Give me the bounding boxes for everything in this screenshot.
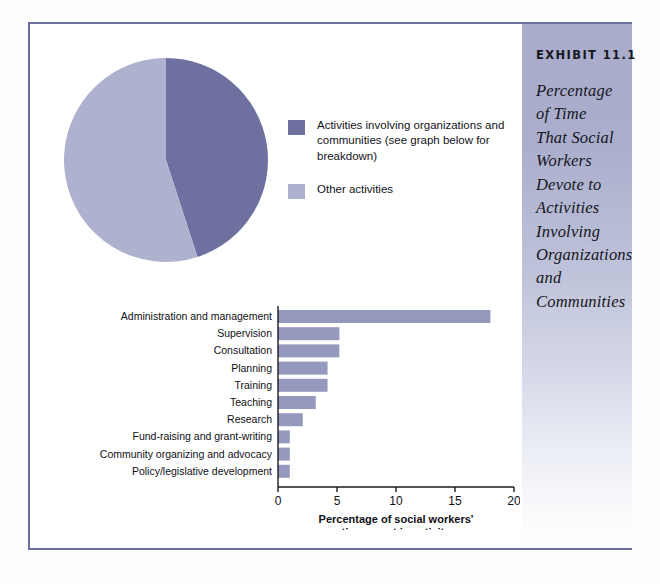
pie-chart bbox=[62, 56, 270, 264]
x-axis-tick-label: 10 bbox=[389, 494, 403, 508]
bar-rect bbox=[278, 430, 290, 443]
legend-label-activities: Activities involving organizations and c… bbox=[317, 118, 510, 164]
bar-rect bbox=[278, 448, 290, 461]
bar-series bbox=[278, 310, 490, 478]
pie-slices bbox=[64, 58, 268, 262]
bar-rect bbox=[278, 310, 490, 323]
bar-rect bbox=[278, 465, 290, 478]
bar-rect bbox=[278, 379, 328, 392]
legend-item-activities: Activities involving organizations and c… bbox=[288, 118, 510, 164]
pie-legend: Activities involving organizations and c… bbox=[288, 118, 510, 217]
pie-chart-svg bbox=[62, 56, 270, 264]
bar-category-label: Teaching bbox=[230, 396, 272, 408]
bar-category-label: Administration and management bbox=[121, 310, 272, 322]
x-axis-title-line1: Percentage of social workers' bbox=[319, 513, 474, 525]
bar-chart-svg: Administration and managementSupervision… bbox=[60, 280, 520, 530]
bar-category-label: Training bbox=[234, 379, 272, 391]
bar-rect bbox=[278, 413, 303, 426]
bar-category-label: Fund-raising and grant-writing bbox=[133, 430, 273, 442]
x-axis-tick-label: 5 bbox=[334, 494, 341, 508]
bar-category-label: Community organizing and advocacy bbox=[100, 448, 273, 460]
exhibit-side-panel: EXHIBIT 11.1 Percentage of Time That Soc… bbox=[522, 24, 632, 548]
x-axis-tick-label: 20 bbox=[507, 494, 520, 508]
bar-rect bbox=[278, 396, 316, 409]
legend-swatch-dark bbox=[288, 120, 305, 135]
legend-swatch-light bbox=[288, 184, 305, 199]
bar-category-labels: Administration and managementSupervision… bbox=[100, 310, 273, 477]
bar-category-label: Planning bbox=[231, 362, 272, 374]
x-axis-tick-label: 0 bbox=[275, 494, 282, 508]
bar-category-label: Policy/legislative development bbox=[132, 465, 272, 477]
bar-x-tick-labels: 05101520 bbox=[275, 494, 520, 508]
x-axis-tick-label: 15 bbox=[448, 494, 462, 508]
legend-label-other: Other activities bbox=[317, 182, 393, 197]
exhibit-figure: Activities involving organizations and c… bbox=[0, 0, 660, 584]
exhibit-title: Percentage of Time That Social Workers D… bbox=[536, 79, 620, 313]
legend-item-other: Other activities bbox=[288, 182, 510, 199]
bar-chart: Administration and managementSupervision… bbox=[60, 280, 520, 530]
exhibit-number: EXHIBIT 11.1 bbox=[536, 48, 620, 62]
x-axis-title-line2: time spent in activity bbox=[342, 526, 452, 530]
exhibit-panel-content: EXHIBIT 11.1 Percentage of Time That Soc… bbox=[522, 24, 632, 313]
bar-category-label: Supervision bbox=[217, 327, 272, 339]
bar-rect bbox=[278, 362, 328, 375]
figure-frame: Activities involving organizations and c… bbox=[28, 22, 632, 550]
bar-category-label: Research bbox=[227, 413, 272, 425]
bar-rect bbox=[278, 327, 339, 340]
bar-category-label: Consultation bbox=[214, 344, 273, 356]
bar-rect bbox=[278, 344, 339, 357]
